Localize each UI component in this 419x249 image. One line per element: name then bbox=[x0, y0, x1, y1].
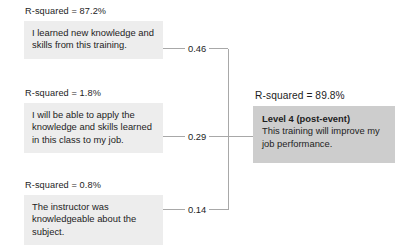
predictor-statement-box-2: I will be able to apply the knowledge an… bbox=[24, 103, 163, 153]
path-diagram: R-squared = 87.2% I learned new knowledg… bbox=[0, 0, 419, 249]
path-coefficient-1: 0.46 bbox=[185, 43, 209, 54]
predictor-group-3: R-squared = 0.8% The instructor was know… bbox=[24, 180, 163, 245]
outcome-group: R-squared = 89.8% Level 4 (post-event) T… bbox=[253, 90, 395, 163]
outcome-statement-box: Level 4 (post-event) This training will … bbox=[253, 106, 395, 163]
path-coefficient-2: 0.29 bbox=[185, 131, 209, 142]
outcome-statement: This training will improve my job perfor… bbox=[262, 125, 386, 150]
rsquared-label-2: R-squared = 1.8% bbox=[25, 88, 163, 99]
path-coefficient-3: 0.14 bbox=[185, 204, 209, 215]
rsquared-label-3: R-squared = 0.8% bbox=[25, 180, 163, 191]
predictor-statement-box-3: The instructor was knowledgeable about t… bbox=[24, 195, 163, 245]
outcome-title: Level 4 (post-event) bbox=[262, 113, 386, 125]
predictor-group-1: R-squared = 87.2% I learned new knowledg… bbox=[24, 6, 163, 59]
rsquared-label-1: R-squared = 87.2% bbox=[25, 6, 163, 17]
predictor-group-2: R-squared = 1.8% I will be able to apply… bbox=[24, 88, 163, 153]
rsquared-label-outcome: R-squared = 89.8% bbox=[255, 90, 395, 101]
predictor-statement-box-1: I learned new knowledge and skills from … bbox=[24, 21, 163, 59]
